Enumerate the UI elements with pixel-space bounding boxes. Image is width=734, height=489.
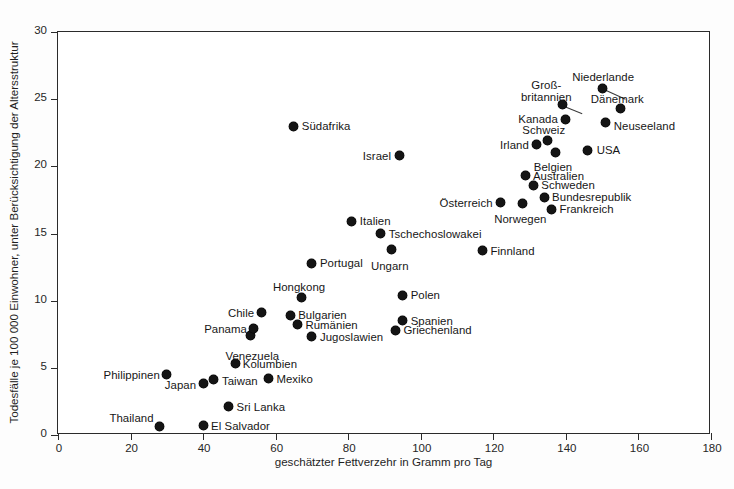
data-point[interactable]: [529, 181, 538, 190]
data-point[interactable]: [307, 332, 316, 341]
y-tick-label: 0: [41, 428, 47, 440]
data-point[interactable]: [293, 320, 302, 329]
data-point-label: Niederlande: [572, 71, 634, 83]
data-point[interactable]: [264, 374, 273, 383]
data-point-label: Rumänien: [305, 319, 357, 331]
data-point-label: Griechenland: [403, 324, 471, 336]
data-point[interactable]: [347, 217, 356, 226]
y-tick-label: 5: [41, 361, 47, 373]
data-point[interactable]: [224, 402, 233, 411]
data-point[interactable]: [162, 370, 171, 379]
x-tick-label: 20: [125, 443, 138, 455]
data-point[interactable]: [547, 205, 556, 214]
data-point-label: Schweiz: [522, 124, 565, 136]
data-point[interactable]: [387, 245, 396, 254]
data-point[interactable]: [532, 140, 541, 149]
data-point-label: Thailand: [109, 412, 153, 424]
x-tick: 100: [421, 433, 422, 440]
data-point[interactable]: [376, 229, 385, 238]
data-point[interactable]: [616, 104, 625, 113]
data-point-label: Norwegen: [494, 213, 546, 225]
data-point-label: Belgien: [534, 161, 572, 173]
x-tick: 180: [711, 433, 712, 440]
y-tick: 10: [51, 301, 58, 302]
data-point[interactable]: [540, 193, 549, 202]
data-point-label: Israel: [363, 150, 391, 162]
data-point[interactable]: [496, 198, 505, 207]
x-tick-label: 40: [198, 443, 211, 455]
data-point-label: Jugoslawien: [320, 331, 383, 343]
data-point-label: Ungarn: [371, 260, 409, 272]
data-point-label: El Salvador: [211, 420, 270, 432]
x-tick-label: 180: [702, 443, 721, 455]
data-point-label: Polen: [411, 289, 440, 301]
x-tick-label: 60: [270, 443, 283, 455]
data-point-label: Frankreich: [559, 203, 613, 215]
data-point[interactable]: [155, 422, 164, 431]
data-point[interactable]: [289, 122, 298, 131]
data-point[interactable]: [551, 148, 560, 157]
data-point[interactable]: [398, 291, 407, 300]
x-tick-label: 120: [485, 443, 504, 455]
data-point[interactable]: [257, 308, 266, 317]
x-tick: 0: [58, 433, 59, 440]
plot-area: 051015202530 020406080100120140160180 Th…: [57, 31, 710, 434]
data-point-label: Irland: [500, 139, 529, 151]
data-point-label: Philippinen: [104, 369, 160, 381]
data-point[interactable]: [286, 311, 295, 320]
data-point-label: Italien: [360, 215, 391, 227]
y-tick: 5: [51, 368, 58, 369]
data-point-label: Tschechoslowakei: [389, 228, 482, 240]
data-point-label: Sri Lanka: [237, 401, 286, 413]
x-tick-label: 0: [56, 443, 62, 455]
data-point[interactable]: [518, 199, 527, 208]
data-point[interactable]: [598, 84, 607, 93]
y-tick: 15: [51, 234, 58, 235]
data-point[interactable]: [521, 171, 530, 180]
data-point[interactable]: [561, 115, 570, 124]
data-point[interactable]: [391, 326, 400, 335]
data-point-label: Groß-britannien: [517, 79, 575, 104]
data-point[interactable]: [249, 324, 258, 333]
data-point[interactable]: [199, 379, 208, 388]
data-point[interactable]: [307, 259, 316, 268]
x-tick: 60: [276, 433, 277, 440]
data-point-label: Portugal: [320, 257, 363, 269]
data-point[interactable]: [297, 293, 306, 302]
data-point[interactable]: [199, 421, 208, 430]
x-tick: 160: [638, 433, 639, 440]
figure-scatter-plot: 051015202530 020406080100120140160180 Th…: [0, 0, 734, 489]
data-point[interactable]: [395, 151, 404, 160]
x-tick: 20: [131, 433, 132, 440]
data-point-label: Panama: [204, 323, 247, 335]
y-tick: 20: [51, 166, 58, 167]
x-tick: 40: [203, 433, 204, 440]
data-point[interactable]: [543, 136, 552, 145]
x-tick-label: 160: [630, 443, 649, 455]
data-point-label: Südafrika: [302, 120, 351, 132]
data-point-label: Hongkong: [273, 281, 325, 293]
data-point[interactable]: [478, 246, 487, 255]
data-point-label: Chile: [228, 307, 254, 319]
y-tick: 0: [51, 435, 58, 436]
data-point[interactable]: [583, 146, 592, 155]
x-tick-label: 80: [343, 443, 356, 455]
data-point[interactable]: [209, 375, 218, 384]
data-point-label: Venezuela: [225, 350, 279, 362]
y-tick-label: 30: [34, 25, 47, 37]
x-tick-label: 140: [557, 443, 576, 455]
y-axis-title: Todesfälle je 100 000 Einwohner, unter B…: [6, 31, 22, 434]
data-point-label: Bundesrepublik: [552, 191, 631, 203]
data-point-label: USA: [597, 144, 621, 156]
data-point-label: Finnland: [490, 245, 534, 257]
y-tick-label: 25: [34, 92, 47, 104]
data-point-label: Dänemark: [591, 93, 644, 105]
x-tick-label: 100: [412, 443, 431, 455]
x-tick: 80: [348, 433, 349, 440]
data-point-label: Japan: [165, 379, 196, 391]
x-axis-title: geschätzter Fettverzehr in Gramm pro Tag: [57, 455, 710, 468]
data-point[interactable]: [601, 118, 610, 127]
y-tick-label: 15: [34, 227, 47, 239]
data-point-label: Kanada: [518, 113, 558, 125]
y-tick: 25: [51, 99, 58, 100]
